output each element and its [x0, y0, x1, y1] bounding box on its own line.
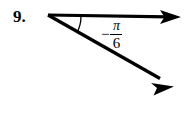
initial-side-line: [48, 15, 168, 17]
angle-arc: [77, 17, 81, 33]
fraction-numerator: π: [111, 19, 122, 34]
angle-measure-label: − π 6: [101, 19, 122, 51]
angle-diagram: 9. − π 6: [0, 0, 189, 133]
fraction: π 6: [110, 19, 122, 51]
angle-drawing: [0, 0, 189, 133]
terminal-side-arrowhead: [151, 83, 174, 96]
fraction-denominator: 6: [111, 35, 123, 51]
negative-sign: −: [101, 27, 110, 44]
